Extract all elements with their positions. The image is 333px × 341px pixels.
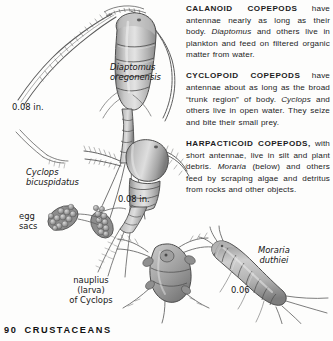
lead-harpacticoid: HARPACTICOID COPEPODS,	[186, 139, 311, 148]
measurement-diaptomus-size: 0.08 in.	[12, 102, 44, 112]
paragraph-cyclopoid: CYCLOPOID COPEPODS have antennae about a…	[186, 70, 330, 128]
field-guide-page: Diaptomus oregonensis Cyclops bicuspidat…	[0, 0, 333, 341]
label-diaptomus-oregonensis: Diaptomus oregonensis	[110, 62, 161, 82]
label-nauplius-larva: nauplius (larva) of Cyclops	[60, 275, 122, 305]
measurement-cyclops-size: 0.08 in.	[118, 194, 150, 204]
label-cyclops-bicuspidatus: Cyclops bicuspidatus	[26, 167, 79, 187]
page-footer: 90CRUSTACEANS	[4, 325, 112, 335]
measurement-moraria-size: 0.06	[231, 285, 250, 295]
label-moraria-duthiei: Moraria duthiei	[258, 245, 290, 265]
harpacticoid-genus-moraria: Moraria	[218, 162, 247, 171]
calanoid-genus-diaptomus: Diaptomus	[211, 27, 251, 36]
page-number: 90	[4, 325, 17, 335]
label-egg-sacs: egg sacs	[19, 211, 37, 231]
description-text-column: CALANOID COPEPODS have antennae nearly a…	[186, 3, 330, 205]
section-title: CRUSTACEANS	[24, 325, 111, 335]
paragraph-calanoid: CALANOID COPEPODS have antennae nearly a…	[186, 3, 330, 61]
paragraph-harpacticoid: HARPACTICOID COPEPODS, with short antenn…	[186, 138, 330, 196]
moraria-duthiei-figure	[199, 226, 328, 324]
lead-cyclopoid: CYCLOPOID COPEPODS	[186, 71, 300, 80]
nauplius-larva-figure	[117, 233, 212, 323]
cyclopoid-genus-cyclops: Cyclops	[281, 95, 311, 104]
lead-calanoid: CALANOID COPEPODS	[186, 4, 297, 13]
